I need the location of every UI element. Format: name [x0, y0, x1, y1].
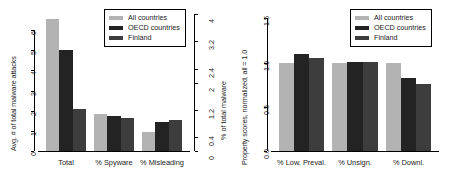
- legend-swatch: [355, 16, 369, 20]
- bar: [107, 116, 120, 151]
- y-tick-label: 5: [29, 51, 38, 55]
- bar: [94, 114, 107, 151]
- secondary-y-tick-label: 2: [207, 88, 216, 92]
- figure-two-panel-bar-charts: Avg. # of total malware attacks % of tot…: [0, 0, 461, 186]
- secondary-y-axis-tick: [195, 137, 198, 138]
- legend-label: Finland: [128, 33, 152, 43]
- legend-swatch: [109, 16, 123, 20]
- bar: [416, 84, 431, 151]
- chart-panel-right: Property scores, normalized, all = 1.0 0…: [231, 0, 461, 186]
- legend-label: OECD countries: [374, 23, 426, 33]
- y-tick-label: 6: [29, 31, 38, 35]
- legend-label: Finland: [374, 33, 398, 43]
- legend-item: Finland: [355, 33, 426, 43]
- legend-swatch: [355, 26, 369, 30]
- secondary-y-tick-label: 0: [207, 156, 216, 160]
- legend-swatch: [109, 26, 123, 30]
- legend-item: OECD countries: [355, 23, 426, 33]
- bar: [169, 120, 182, 151]
- legend-label: All countries: [128, 13, 167, 23]
- y-tick-label: 3: [29, 92, 38, 96]
- legend-label: All countries: [374, 13, 413, 23]
- legend-label: OECD countries: [128, 23, 180, 33]
- bar: [294, 54, 309, 151]
- bar: [279, 63, 294, 151]
- y-tick-label: 1.0: [262, 61, 271, 71]
- x-axis-line: [38, 151, 190, 152]
- legend-item: OECD countries: [109, 23, 180, 33]
- y-tick-label: 1: [29, 132, 38, 136]
- secondary-y-axis-tick: [195, 83, 198, 84]
- bar: [121, 118, 134, 151]
- legend-swatch: [109, 36, 123, 40]
- secondary-y-tick-label: 4: [207, 19, 216, 23]
- bar: [142, 132, 155, 151]
- y-tick-label: 0.5: [262, 105, 271, 115]
- y-tick-label: 1.5: [262, 16, 271, 26]
- secondary-y-tick-label: 0.4: [207, 136, 216, 146]
- x-axis-line: [271, 151, 439, 152]
- secondary-y-axis-tick: [195, 41, 198, 42]
- left-secondary-y-axis-label: % of total malware: [219, 81, 228, 140]
- bar: [332, 63, 347, 151]
- chart-panel-left: Avg. # of total malware attacks % of tot…: [0, 0, 230, 186]
- left-y-axis-label: Avg. # of total malware attacks: [9, 56, 18, 151]
- secondary-y-tick-label: 3.2: [207, 40, 216, 50]
- bar: [155, 122, 168, 151]
- secondary-y-axis-tick: [195, 14, 198, 15]
- secondary-y-tick-label: 2.4: [207, 68, 216, 78]
- bar: [59, 50, 72, 151]
- secondary-y-axis-tick: [195, 110, 198, 111]
- legend-item: Finland: [109, 33, 180, 43]
- y-tick-label: 2: [29, 112, 38, 116]
- bar: [401, 78, 416, 151]
- secondary-y-axis-tick: [195, 151, 198, 152]
- bar: [46, 19, 59, 151]
- legend-swatch: [355, 36, 369, 40]
- legend-item: All countries: [355, 13, 426, 23]
- right-legend: All countriesOECD countriesFinland: [350, 9, 432, 47]
- secondary-y-axis-tick: [195, 69, 198, 70]
- secondary-y-tick-label: 1.2: [207, 109, 216, 119]
- x-tick-label: % Misleading: [122, 158, 202, 167]
- right-y-axis-label: Property scores, normalized, all = 1.0: [240, 50, 249, 165]
- y-tick-label: 4: [29, 71, 38, 75]
- x-tick-label: % Downl.: [369, 158, 449, 167]
- bar: [347, 62, 362, 151]
- bar: [309, 58, 324, 151]
- legend-item: All countries: [109, 13, 180, 23]
- bar: [73, 109, 86, 151]
- y-tick-label: 0: [29, 152, 38, 156]
- y-axis-line: [267, 18, 268, 151]
- bar: [386, 63, 401, 151]
- bar: [363, 62, 378, 151]
- left-legend: All countriesOECD countriesFinland: [104, 9, 186, 47]
